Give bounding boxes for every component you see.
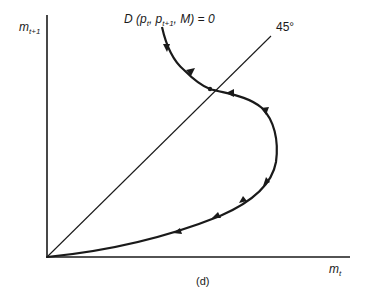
forty-five-degree-line	[47, 36, 271, 257]
y-axis-label: mt+1	[19, 21, 40, 36]
phase-diagram: mt+1 mt 45° D (pt, pt+1, M) = 0 (d)	[0, 0, 368, 299]
arrow-icon	[226, 89, 234, 97]
x-axis-label: mt	[329, 263, 341, 278]
flow-arrows	[163, 44, 270, 234]
diagram-svg	[0, 0, 368, 299]
curve-equation-label: D (pt, pt+1, M) = 0	[124, 13, 215, 28]
panel-label: (d)	[196, 276, 209, 287]
steady-state-point	[208, 87, 212, 91]
forty-five-degree-label: 45°	[276, 21, 294, 33]
